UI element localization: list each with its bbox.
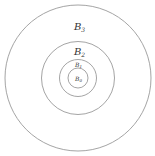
label-b2: B2	[73, 46, 85, 58]
label-b0: B0	[74, 75, 82, 83]
label-b3: B3	[73, 21, 85, 33]
label-b1: B1	[74, 61, 82, 69]
concentric-circles-diagram: B3 B2 B1 B0	[0, 0, 155, 156]
